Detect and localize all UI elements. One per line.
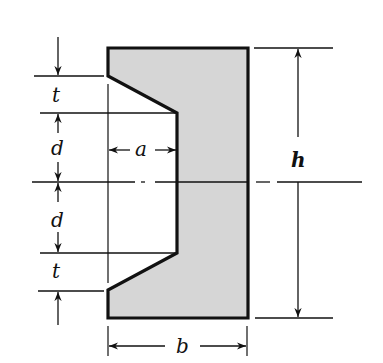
cross-section-diagram: t d a d t h b [0, 0, 383, 363]
label-a: a [135, 137, 147, 161]
label-b: b [176, 334, 189, 358]
label-d-top: d [51, 136, 64, 160]
label-t-bottom: t [52, 259, 61, 283]
section-shape [108, 48, 248, 318]
label-d-bottom: d [51, 208, 64, 232]
label-t-top: t [52, 83, 61, 107]
label-h: h [291, 148, 306, 172]
